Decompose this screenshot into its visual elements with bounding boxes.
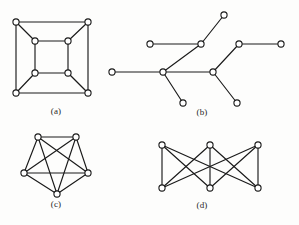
graph-edge (16, 22, 35, 41)
graph-vertex (147, 41, 153, 47)
graph-edge (24, 137, 76, 173)
panel-label-a: (a) (44, 106, 68, 116)
graph-vertex (210, 69, 216, 75)
graph-vertex (278, 41, 284, 47)
panel-label-c: (c) (44, 199, 68, 209)
graph-edge (57, 137, 76, 194)
graph-edge (38, 137, 57, 194)
graph-vertex (85, 90, 91, 96)
graph-edge (16, 73, 35, 93)
panel-d-k33-graph (159, 142, 261, 191)
figure-root: (a) (b) (c) (d) (0, 0, 299, 225)
graph-vertex (85, 170, 91, 176)
graph-edge (57, 173, 88, 194)
graph-vertex (236, 41, 242, 47)
graph-vertex (221, 12, 227, 18)
graph-edge (68, 73, 88, 93)
graph-vertex (207, 185, 213, 191)
panel-label-b: (b) (190, 107, 214, 117)
panel-b-tree-graph (109, 12, 284, 106)
graph-edge (163, 44, 201, 72)
graph-vertex (234, 100, 240, 106)
panel-label-d: (d) (190, 200, 214, 210)
graph-edge (213, 72, 237, 103)
graph-edge (76, 137, 88, 173)
graph-vertex (21, 170, 27, 176)
graph-vertex (32, 38, 38, 44)
graph-vertex (109, 69, 115, 75)
graph-vertex (180, 100, 186, 106)
graph-vertex (32, 70, 38, 76)
graph-edge (201, 15, 224, 44)
graph-vertex (160, 69, 166, 75)
graph-vertex (13, 90, 19, 96)
graph-vertex (65, 70, 71, 76)
panel-a-cube-graph (13, 19, 91, 96)
graph-vertex (255, 185, 261, 191)
graph-vertex (207, 142, 213, 148)
graph-edge (38, 137, 88, 173)
graph-vertex (255, 142, 261, 148)
graph-edge (24, 173, 57, 194)
panel-c-k5-graph (21, 134, 91, 197)
graph-edge (163, 72, 183, 103)
graph-vertex (35, 134, 41, 140)
graph-edge (68, 22, 88, 41)
graph-vertex (65, 38, 71, 44)
graph-vertex (198, 41, 204, 47)
graph-vertex (54, 191, 60, 197)
graph-vertex (85, 19, 91, 25)
graph-vertex (13, 19, 19, 25)
graph-edge (213, 44, 239, 72)
graph-vertex (73, 134, 79, 140)
graph-vertex (159, 185, 165, 191)
graph-vertex (159, 142, 165, 148)
